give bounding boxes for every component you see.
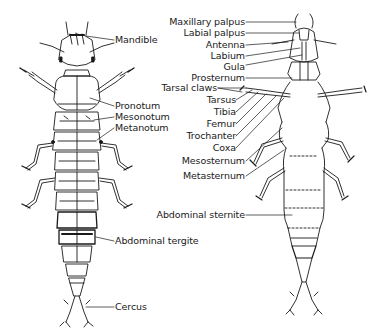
label-metanotum: Metanotum bbox=[115, 123, 169, 133]
label-labial-palpus: Labial palpus bbox=[184, 28, 245, 38]
label-tarsus: Tarsus bbox=[207, 95, 236, 105]
label-pronotum: Pronotum bbox=[115, 101, 160, 111]
label-mesonotum: Mesonotum bbox=[115, 112, 170, 122]
label-gula: Gula bbox=[224, 62, 245, 72]
label-metasternum: Metasternum bbox=[183, 171, 245, 181]
label-abdominal-tergite: Abdominal tergite bbox=[115, 236, 199, 246]
label-tarsal-claws: Tarsal claws bbox=[161, 83, 217, 93]
diagram-drawing bbox=[0, 0, 384, 332]
label-abdominal-sternite: Abdominal sternite bbox=[157, 210, 245, 220]
label-maxillary-palpus: Maxillary palpus bbox=[169, 17, 245, 27]
label-mesosternum: Mesosternum bbox=[182, 156, 245, 166]
ventral-larva-illustration bbox=[240, 14, 366, 315]
label-coxa: Coxa bbox=[213, 143, 236, 153]
label-mandible: Mandible bbox=[115, 35, 157, 45]
label-antenna: Antenna bbox=[206, 40, 245, 50]
dorsal-larva-illustration bbox=[20, 22, 134, 327]
larva-anatomy-diagram: Mandible Pronotum Mesonotum Metanotum Ab… bbox=[0, 0, 384, 332]
label-labium: Labium bbox=[211, 51, 245, 61]
label-trochanter: Trochanter bbox=[187, 131, 236, 141]
label-cercus: Cercus bbox=[115, 302, 147, 312]
label-femur: Femur bbox=[207, 119, 236, 129]
label-tibia: Tibia bbox=[214, 107, 236, 117]
dorsal-leader-lines bbox=[86, 36, 114, 307]
